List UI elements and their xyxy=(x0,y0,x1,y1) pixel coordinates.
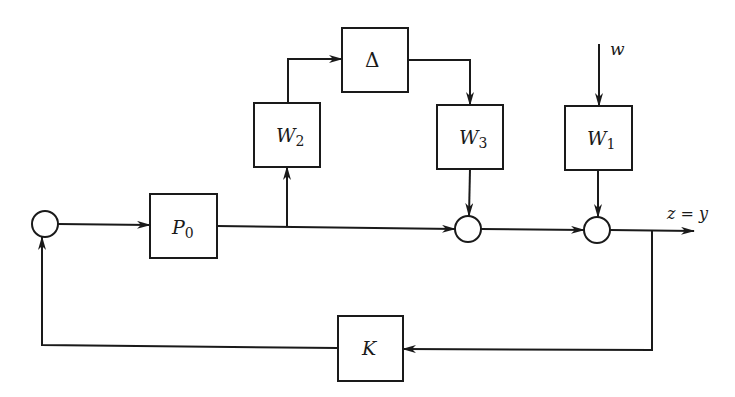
signal-delta-to-w3 xyxy=(408,60,470,105)
signal-output-to-k xyxy=(403,231,652,350)
signal-output xyxy=(610,230,694,231)
signal-sum1-to-p0 xyxy=(58,224,150,225)
signal-k-to-sum1 xyxy=(42,237,338,348)
label-w2: W2 xyxy=(276,124,304,149)
summing-junction-1 xyxy=(32,211,58,237)
signal-w3-to-sum2 xyxy=(469,169,470,216)
signal-sum2-to-sum3 xyxy=(481,229,584,230)
label-delta: Δ xyxy=(365,48,379,72)
label-w1: W1 xyxy=(587,127,615,152)
summing-junction-3 xyxy=(584,217,610,243)
label-output: z = y xyxy=(666,204,709,223)
label-p0: P0 xyxy=(171,216,194,241)
label-w3: W3 xyxy=(459,126,487,151)
block-diagram: P0 W2 Δ W3 W1 K w z = y xyxy=(0,0,735,397)
signal-p0-to-sum2 xyxy=(217,226,455,229)
signal-w2-to-delta xyxy=(288,59,342,103)
label-k: K xyxy=(361,337,378,359)
label-w-disturbance: w xyxy=(610,39,625,59)
summing-junction-2 xyxy=(455,216,481,242)
